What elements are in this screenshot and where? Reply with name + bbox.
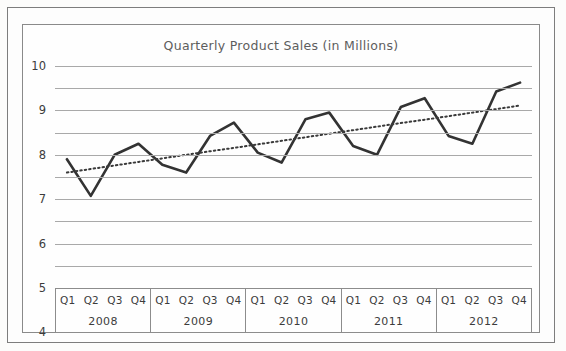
quarter-label-q3-2010: Q3 bbox=[294, 294, 318, 306]
year-label-2008: 2008 bbox=[56, 311, 150, 332]
y-axis-tick-label-9: 9 bbox=[39, 103, 46, 117]
year-label-2011: 2011 bbox=[342, 311, 436, 332]
quarter-row: Q1Q2Q3Q4 bbox=[56, 289, 150, 311]
chart-title: Quarterly Product Sales (in Millions) bbox=[22, 38, 540, 53]
quarter-row: Q1Q2Q3Q4 bbox=[246, 289, 340, 311]
y-axis-tick-label-10: 10 bbox=[31, 59, 46, 73]
trendline-path bbox=[67, 106, 520, 173]
year-group-2008: Q1Q2Q3Q42008 bbox=[56, 289, 151, 332]
y-axis-tick-label-8: 8 bbox=[39, 148, 46, 162]
x-axis-label-table: Q1Q2Q3Q42008Q1Q2Q3Q42009Q1Q2Q3Q42010Q1Q2… bbox=[55, 288, 532, 333]
quarter-label-q4-2010: Q4 bbox=[317, 294, 341, 306]
quarter-label-q2-2009: Q2 bbox=[175, 294, 199, 306]
quarter-label-q2-2012: Q2 bbox=[460, 294, 484, 306]
y-axis-tick-label-6: 6 bbox=[39, 237, 46, 251]
quarter-label-q1-2008: Q1 bbox=[56, 294, 80, 306]
quarter-row: Q1Q2Q3Q4 bbox=[342, 289, 436, 311]
quarter-row: Q1Q2Q3Q4 bbox=[437, 289, 531, 311]
quarter-label-q2-2008: Q2 bbox=[80, 294, 104, 306]
year-label-2012: 2012 bbox=[437, 311, 531, 332]
plot-area: 109876543210 bbox=[55, 66, 532, 288]
gridline-7: 7 bbox=[55, 133, 532, 134]
quarter-label-q1-2010: Q1 bbox=[246, 294, 270, 306]
quarter-row: Q1Q2Q3Q4 bbox=[151, 289, 245, 311]
year-label-2010: 2010 bbox=[246, 311, 340, 332]
gridline-3: 3 bbox=[55, 221, 532, 222]
gridline-8: 8 bbox=[55, 110, 532, 111]
quarter-label-q4-2012: Q4 bbox=[507, 294, 531, 306]
quarter-label-q3-2011: Q3 bbox=[389, 294, 413, 306]
year-group-2010: Q1Q2Q3Q42010 bbox=[246, 289, 341, 332]
year-group-2011: Q1Q2Q3Q42011 bbox=[342, 289, 437, 332]
gridline-2: 2 bbox=[55, 244, 532, 245]
quarter-label-q2-2010: Q2 bbox=[270, 294, 294, 306]
chart-page: Quarterly Product Sales (in Millions) 10… bbox=[0, 0, 566, 351]
quarter-label-q2-2011: Q2 bbox=[365, 294, 389, 306]
quarter-label-q4-2011: Q4 bbox=[412, 294, 436, 306]
gridline-6: 6 bbox=[55, 155, 532, 156]
y-axis-tick-label-4: 4 bbox=[39, 325, 46, 339]
quarter-label-q1-2012: Q1 bbox=[437, 294, 461, 306]
y-axis-tick-label-5: 5 bbox=[39, 281, 46, 295]
year-group-2009: Q1Q2Q3Q42009 bbox=[151, 289, 246, 332]
y-axis-tick-label-7: 7 bbox=[39, 192, 46, 206]
year-label-2009: 2009 bbox=[151, 311, 245, 332]
gridline-1: 1 bbox=[55, 266, 532, 267]
quarter-label-q1-2011: Q1 bbox=[342, 294, 366, 306]
gridline-10: 10 bbox=[55, 66, 532, 67]
quarter-label-q3-2009: Q3 bbox=[198, 294, 222, 306]
year-group-2012: Q1Q2Q3Q42012 bbox=[437, 289, 531, 332]
quarter-label-q3-2012: Q3 bbox=[484, 294, 508, 306]
quarter-label-q3-2008: Q3 bbox=[103, 294, 127, 306]
gridline-4: 4 bbox=[55, 199, 532, 200]
quarter-label-q1-2009: Q1 bbox=[151, 294, 175, 306]
gridline-5: 5 bbox=[55, 177, 532, 178]
gridline-9: 9 bbox=[55, 88, 532, 89]
quarter-label-q4-2008: Q4 bbox=[127, 294, 151, 306]
quarter-label-q4-2009: Q4 bbox=[222, 294, 246, 306]
